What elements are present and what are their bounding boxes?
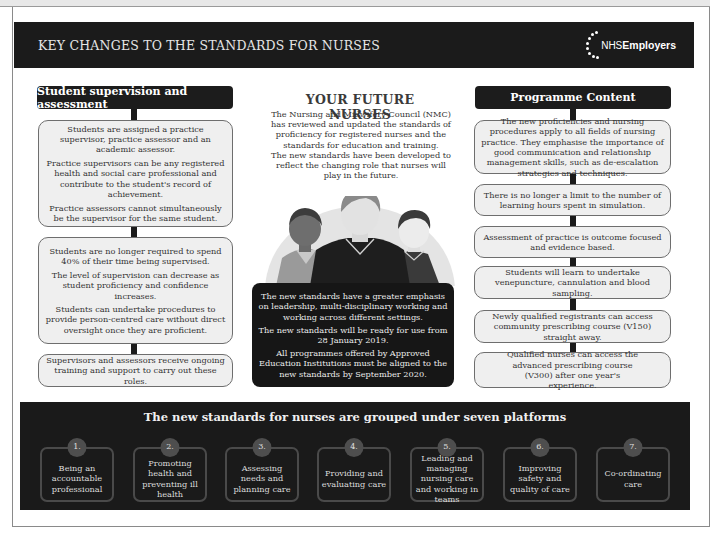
platform-card-5: 5. Leading and managing nursing care and…	[410, 447, 484, 502]
platform-label: Promoting health and preventing ill heal…	[137, 458, 203, 499]
platform-number-badge: 6.	[531, 438, 550, 457]
right-box-5: Newly qualified registrants can access c…	[474, 310, 671, 343]
left-box-2: Students are no longer required to spend…	[38, 237, 233, 344]
right-box-2: There is no longer a limit to the number…	[474, 184, 671, 216]
right-box-3: Assessment of practice is outcome focuse…	[474, 226, 671, 258]
platform-number-badge: 1.	[68, 438, 87, 457]
platform-number-badge: 2.	[161, 438, 180, 457]
platform-label: Co-ordinating care	[600, 468, 666, 488]
platform-label: Assessing needs and planning care	[229, 463, 295, 494]
right-column-title: Programme Content	[475, 86, 671, 109]
platform-number-badge: 3.	[253, 438, 272, 457]
left-box-3: Supervisors and assessors receive ongoin…	[38, 354, 233, 387]
platform-label: Improving safety and quality of care	[507, 463, 573, 494]
left-box-2-para-1: Students are no longer required to spend…	[45, 246, 226, 267]
left-box-1-para-3: Practice assessors cannot simultaneously…	[45, 203, 226, 224]
platform-number-badge: 4.	[345, 438, 364, 457]
platform-card-6: 6. Improving safety and quality of care	[503, 447, 577, 502]
left-column-title: Student supervision and assessment	[37, 86, 233, 109]
logo-name: Employers	[622, 39, 676, 51]
platform-number-badge: 7.	[624, 438, 643, 457]
center-intro-para-2: The new standards have been developed to…	[268, 150, 454, 181]
left-box-2-para-3: Students can undertake procedures to pro…	[45, 304, 226, 335]
platform-card-7: 7. Co-ordinating care	[596, 447, 670, 502]
left-box-3-para-1: Supervisors and assessors receive ongoin…	[45, 355, 226, 386]
center-point-2: The new standards will be ready for use …	[258, 325, 448, 345]
platform-label: Leading and managing nursing care and wo…	[414, 453, 480, 504]
logo-dots-icon	[584, 31, 598, 59]
platform-card-1: 1. Being an accountable professional	[40, 447, 114, 502]
right-box-6: Qualified nurses can access the advanced…	[474, 352, 671, 388]
top-strip	[0, 0, 710, 7]
header-banner: KEY CHANGES TO THE STANDARDS FOR NURSES …	[14, 22, 694, 68]
left-box-1: Students are assigned a practice supervi…	[38, 120, 233, 227]
platform-number-badge: 5.	[438, 438, 457, 457]
left-box-1-para-2: Practice supervisors can be any register…	[45, 158, 226, 200]
logo-text: NHSEmployers	[601, 39, 676, 51]
right-box-4: Students will learn to undertake venepun…	[474, 266, 671, 299]
nurses-icon	[262, 196, 458, 286]
left-box-2-para-2: The level of supervision can decrease as…	[45, 270, 226, 301]
left-box-1-para-1: Students are assigned a practice supervi…	[45, 124, 226, 155]
center-point-1: The new standards have a greater emphasi…	[258, 291, 448, 322]
platforms-banner: The new standards for nurses are grouped…	[20, 402, 690, 510]
center-intro-para-1: The Nursing and Midwifery Council (NMC) …	[268, 109, 454, 150]
center-key-points-box: The new standards have a greater emphasi…	[252, 283, 454, 387]
platform-card-3: 3. Assessing needs and planning care	[225, 447, 299, 502]
right-box-1: The new proficiencies and nursing proced…	[474, 120, 671, 174]
page-title: KEY CHANGES TO THE STANDARDS FOR NURSES	[38, 38, 380, 53]
platform-card-2: 2. Promoting health and preventing ill h…	[133, 447, 207, 502]
nhs-employers-logo: NHSEmployers	[584, 31, 676, 59]
center-point-3: All programmes offered by Approved Educa…	[258, 348, 448, 379]
logo-prefix: NHS	[601, 40, 622, 51]
platform-label: Being an accountable professional	[44, 463, 110, 494]
center-intro: The Nursing and Midwifery Council (NMC) …	[268, 109, 454, 180]
three-nurses-illustration	[262, 196, 458, 286]
platform-label: Providing and evaluating care	[321, 468, 387, 488]
platform-card-4: 4. Providing and evaluating care	[317, 447, 391, 502]
platforms-title: The new standards for nurses are grouped…	[20, 410, 690, 424]
